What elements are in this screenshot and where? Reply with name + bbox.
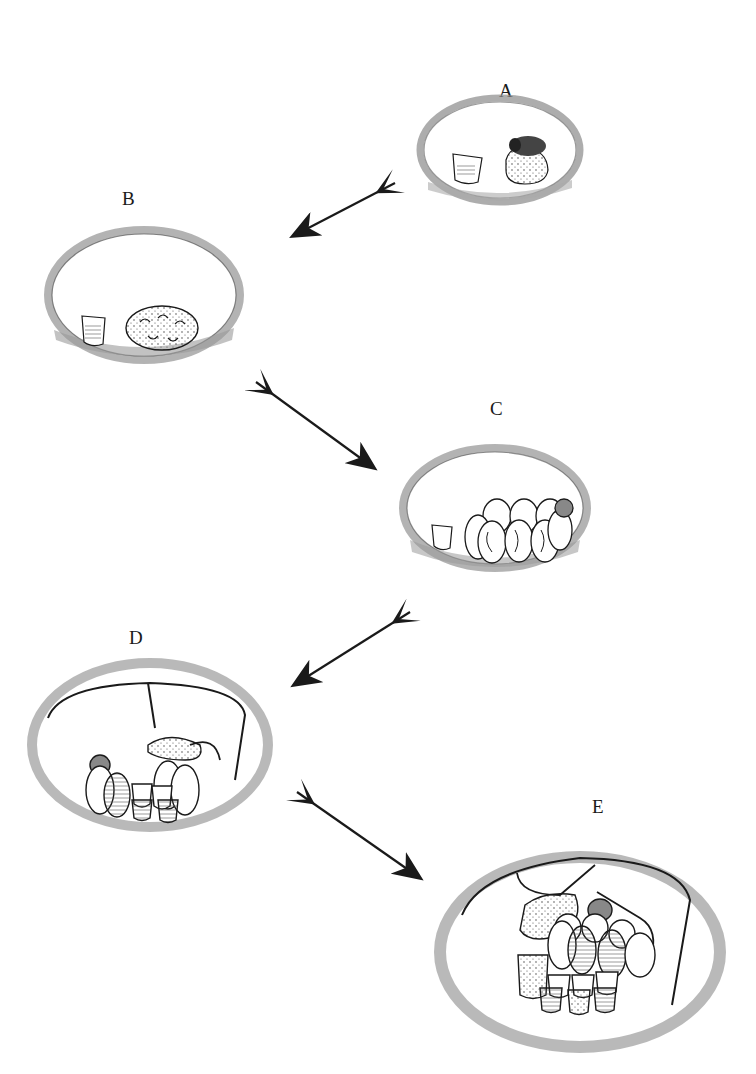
nest-a [420,98,580,202]
nest-development-diagram [0,0,756,1074]
nest-b [48,230,240,360]
nest-c [403,448,587,568]
arrow-c-to-d [294,612,410,685]
arrow-a-to-b [293,183,395,236]
cocoon-icon [625,933,655,977]
cocoon-row [465,499,573,563]
nest-e [440,857,720,1047]
brood-clump-icon [148,738,201,761]
arrows [256,183,420,878]
honey-pot-icon [432,525,452,550]
nest-d [32,663,268,827]
arrow-b-to-c [256,382,374,468]
brood-clump-icon [126,306,198,350]
arrow-d-to-e [297,792,420,878]
